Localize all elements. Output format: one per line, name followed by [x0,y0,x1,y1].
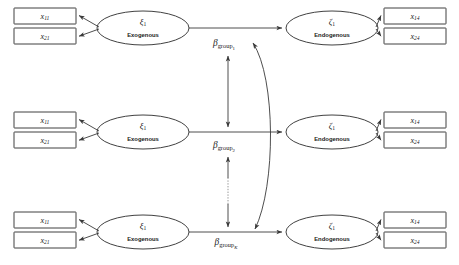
sem-path-diagram: x11 x21 ξ1 Exogenous ζ1 Endogenous [0,0,459,265]
exogenous-role-label: Exogenous [127,136,159,142]
endogenous-role-label: Endogenous [314,136,350,142]
loading-edge [79,29,99,36]
path-coefficient-label: βgroup1 [212,38,236,50]
endogenous-role-label: Endogenous [314,236,350,242]
diagram-canvas: x11 x21 ξ1 Exogenous ζ1 Endogenous [0,0,459,265]
group-row-K: x11 x21 ξ1 Exogenous ζ1 Endogenous x14 [14,212,446,250]
loading-edge [376,16,381,28]
endogenous-role-label: Endogenous [314,32,350,38]
loading-edge [376,120,381,132]
loading-edge [79,133,99,140]
group-comparison-arc [253,43,271,229]
group-row-1: x11 x21 ξ1 Exogenous ζ1 Endogenous [14,8,446,51]
loading-edge [376,220,381,232]
loading-edge [79,233,99,240]
loading-edge [79,120,99,132]
loading-edge [79,16,99,28]
exogenous-role-label: Exogenous [127,236,159,242]
path-coefficient-label: βgroupK [214,237,239,249]
group-row-2: x11 x21 ξ1 Exogenous ζ1 Endogenous x14 [14,112,446,153]
loading-edge [79,220,99,232]
path-coefficient-label: βgroup2 [212,140,236,152]
exogenous-role-label: Exogenous [127,32,159,38]
